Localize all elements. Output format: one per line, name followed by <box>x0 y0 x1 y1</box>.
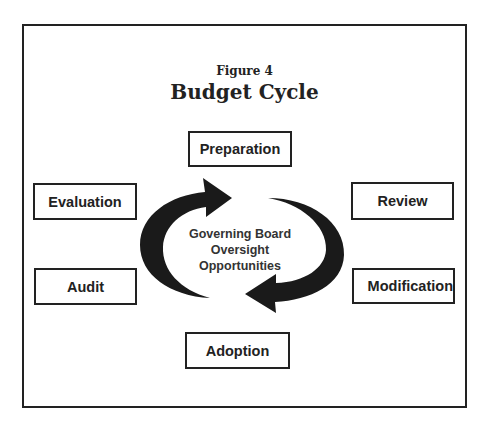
stage-modification: Modification <box>352 268 455 304</box>
center-caption-line-2: Oversight <box>170 242 310 258</box>
center-caption-line-3: Opportunities <box>170 258 310 274</box>
stage-review: Review <box>351 182 454 220</box>
stage-evaluation: Evaluation <box>33 183 137 220</box>
stage-review-label: Review <box>378 193 428 209</box>
stage-audit-label: Audit <box>67 279 104 295</box>
center-caption: Governing Board Oversight Opportunities <box>170 226 310 274</box>
stage-evaluation-label: Evaluation <box>48 194 121 210</box>
stage-adoption: Adoption <box>185 332 290 369</box>
center-caption-line-1: Governing Board <box>170 226 310 242</box>
stage-audit: Audit <box>34 268 137 305</box>
stage-preparation: Preparation <box>188 131 292 167</box>
stage-preparation-label: Preparation <box>200 141 281 157</box>
stage-adoption-label: Adoption <box>206 343 270 359</box>
stage-modification-label: Modification <box>368 278 453 294</box>
